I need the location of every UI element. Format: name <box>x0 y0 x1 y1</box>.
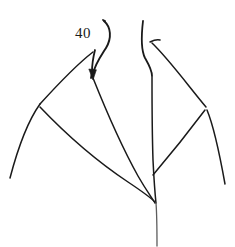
figure-canvas: 40 <box>0 0 235 247</box>
reference-numeral-40: 40 <box>75 26 91 41</box>
line-drawing-svg <box>0 0 235 247</box>
leader-dot-40 <box>103 20 105 21</box>
figure-background <box>0 0 235 247</box>
